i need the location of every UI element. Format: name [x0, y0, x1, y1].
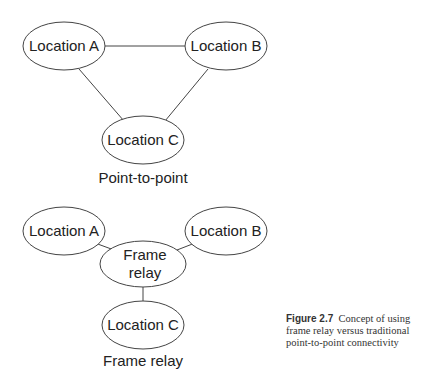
figure-caption: Figure 2.7 Concept of using frame relay … — [286, 313, 436, 349]
label-relay: relay — [129, 264, 162, 281]
label-a: Location A — [29, 37, 99, 54]
label-c-2: Location C — [107, 316, 179, 333]
diagram-title-point-to-point: Point-to-point — [98, 169, 188, 186]
diagram-title-frame-relay: Frame relay — [103, 352, 184, 369]
label-c: Location C — [107, 131, 179, 148]
label-a-2: Location A — [29, 222, 99, 239]
edge-b-c — [165, 69, 208, 121]
label-b-2: Location B — [191, 222, 262, 239]
label-frame: Frame — [123, 246, 166, 263]
figure-label: Figure 2.7 — [286, 313, 333, 324]
edge-a-c — [79, 69, 124, 121]
label-b: Location B — [191, 37, 262, 54]
